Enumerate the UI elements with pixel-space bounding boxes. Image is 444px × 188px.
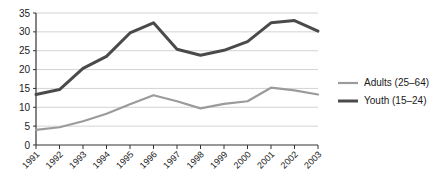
y-tick-labels: 05101520253035 — [19, 8, 31, 151]
y-tick-label: 15 — [19, 83, 31, 94]
x-tick-label: 1994 — [91, 149, 112, 170]
x-tick-label: 2002 — [279, 149, 300, 170]
x-tick-label: 1996 — [138, 149, 159, 170]
x-tick-label: 2000 — [232, 149, 253, 170]
y-tick-label: 5 — [24, 121, 30, 132]
x-tick-label: 2001 — [255, 149, 276, 170]
x-axis — [36, 145, 318, 149]
x-tick-label: 1998 — [185, 149, 206, 170]
x-tick-label: 1992 — [44, 149, 65, 170]
x-tick-label: 2003 — [302, 149, 323, 170]
y-tick-label: 30 — [19, 26, 31, 37]
y-tick-label: 35 — [19, 8, 31, 19]
y-tick-label: 20 — [19, 64, 31, 75]
y-tick-label: 10 — [19, 102, 31, 113]
series-lines — [36, 21, 318, 130]
x-tick-label: 1999 — [208, 149, 229, 170]
gridlines — [36, 13, 318, 126]
y-tick-label: 25 — [19, 45, 31, 56]
line-chart: 05101520253035 1991199219931994199519961… — [0, 0, 444, 188]
x-tick-label: 1993 — [67, 149, 88, 170]
x-tick-label: 1995 — [114, 149, 135, 170]
x-tick-label: 1997 — [161, 149, 182, 170]
legend-label: Youth (15–24) — [364, 95, 426, 106]
x-tick-labels: 1991199219931994199519961997199819992000… — [20, 149, 323, 170]
y-tick-label: 0 — [24, 140, 30, 151]
chart-canvas: 05101520253035 1991199219931994199519961… — [0, 0, 444, 188]
legend-label: Adults (25–64) — [364, 77, 429, 88]
chart-legend: Adults (25–64)Youth (15–24) — [338, 77, 429, 106]
x-tick-label: 1991 — [20, 149, 41, 170]
y-axis — [33, 13, 36, 145]
series-line-adults — [36, 88, 318, 130]
